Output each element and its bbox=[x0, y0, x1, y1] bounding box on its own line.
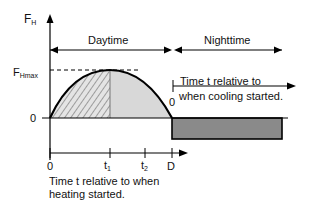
t1-sub: 1 bbox=[107, 165, 111, 172]
heating-caption-1: Time t relative to when bbox=[49, 175, 159, 187]
fhmax-sub: Hmax bbox=[20, 72, 38, 79]
y-axis-label-sub: H bbox=[31, 19, 36, 26]
tick-t1: t1 bbox=[104, 159, 111, 175]
tick-d: D bbox=[167, 160, 175, 172]
fhmax-main: F bbox=[13, 66, 20, 78]
zero-label: 0 bbox=[30, 112, 36, 124]
cooling-caption-2: when cooling started. bbox=[179, 90, 283, 102]
t2-sub: 2 bbox=[144, 165, 148, 172]
cooling-area bbox=[172, 118, 282, 139]
y-axis-label: FH bbox=[24, 13, 36, 29]
fhmax-label: FHmax bbox=[13, 66, 38, 82]
tick-t2: t2 bbox=[141, 159, 148, 175]
cooling-caption-1: Time t relative to bbox=[180, 75, 261, 87]
tick-origin: 0 bbox=[47, 160, 53, 172]
heating-rising-area bbox=[50, 70, 110, 118]
heating-caption-2: heating started. bbox=[49, 188, 125, 200]
heating-falling-area bbox=[110, 70, 172, 118]
cooling-origin-label: 0 bbox=[169, 96, 175, 108]
nighttime-label: Nighttime bbox=[204, 34, 250, 46]
daytime-label: Daytime bbox=[88, 34, 128, 46]
